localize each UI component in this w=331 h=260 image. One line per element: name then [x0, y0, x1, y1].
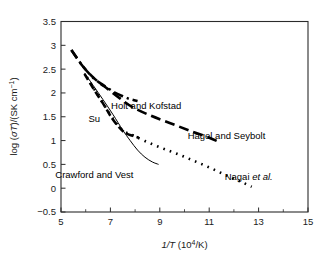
series-label-hagel-and-seybolt: Hagel and Seybolt — [188, 130, 266, 141]
x-axis-title: 1/T (104/K) — [161, 239, 207, 250]
series-label-crawford-and-vest: Crawford and Vest — [55, 169, 134, 180]
y-tick-label: 2 — [51, 87, 56, 98]
x-tick-label: 11 — [204, 216, 214, 227]
y-tick-label: 3 — [51, 40, 56, 51]
y-tick-label: −0.5 — [37, 206, 56, 217]
y-tick-label: 1 — [51, 135, 56, 146]
x-tick-label: 5 — [58, 216, 63, 227]
y-axis-title-group: log (σT)/(SK cm−1) — [8, 77, 19, 155]
series-label-nagai-et-al: Nagai et al. — [225, 171, 273, 182]
y-tick-label: 2.5 — [43, 64, 56, 75]
chart-figure: −0.500.511.522.533.5 579111315 Holt and … — [0, 0, 331, 260]
y-tick-label: 3.5 — [43, 16, 56, 27]
y-tick-label: 0.5 — [43, 159, 56, 170]
x-tick-label: 7 — [108, 216, 113, 227]
series-label-holt-and-kofstad: Holt and Kofstad — [111, 100, 181, 111]
scientific-line-chart: −0.500.511.522.533.5 579111315 Holt and … — [0, 0, 331, 260]
y-tick-label: 0 — [51, 183, 56, 194]
chart-background — [0, 0, 331, 260]
x-tick-label: 15 — [303, 216, 314, 227]
y-tick-label: 1.5 — [43, 111, 56, 122]
x-tick-label: 9 — [157, 216, 162, 227]
y-axis-title: log (σT)/(SK cm−1) — [8, 77, 19, 155]
x-tick-label: 13 — [253, 216, 264, 227]
series-label-su: Su — [89, 113, 101, 124]
